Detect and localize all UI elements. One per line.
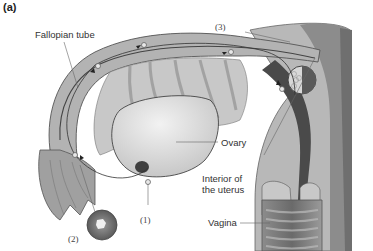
label-vagina: Vagina: [208, 217, 237, 228]
label-ovary: Ovary: [221, 137, 246, 148]
label-interior-uterus-2: the uterus: [202, 184, 244, 195]
label-fallopian-tube: Fallopian tube: [35, 29, 95, 40]
ovulating-follicle: [135, 161, 149, 173]
vagina: [262, 200, 322, 251]
label-interior-uterus-1: Interior of: [202, 173, 242, 184]
label-step-3: (3): [215, 22, 226, 32]
label-step-1: (1): [140, 215, 151, 225]
label-step-2: (2): [68, 234, 79, 244]
fertilized-egg-inset: [87, 210, 117, 240]
ovary: [112, 96, 219, 177]
implanted-embryo: [288, 66, 316, 94]
